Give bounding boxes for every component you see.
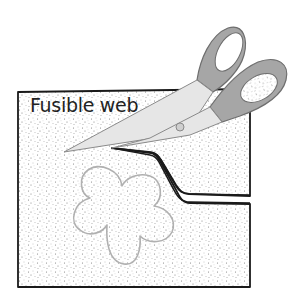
fusible-web-illustration: Fusible web	[0, 0, 302, 298]
illustration-canvas	[0, 0, 302, 298]
pivot-screw-icon	[176, 123, 184, 131]
fusible-web-label: Fusible web	[30, 94, 138, 116]
